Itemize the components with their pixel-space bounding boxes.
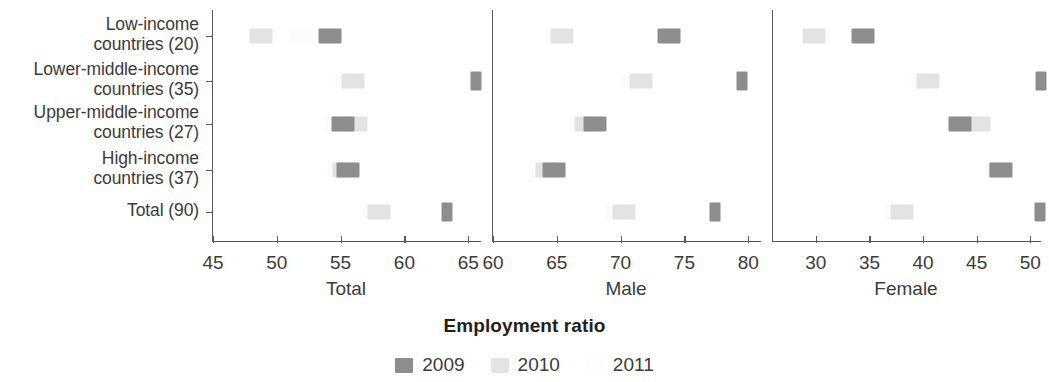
y-axis-tick: [206, 170, 213, 171]
data-point-2009-0: [319, 29, 342, 44]
y-axis-tick: [206, 81, 213, 82]
data-point-2009-3: [543, 163, 566, 178]
data-point-2009-4: [710, 203, 721, 222]
panel-male: 6065707580: [492, 10, 760, 242]
x-axis-tick: [816, 236, 817, 243]
y-axis-label-line: High-income: [93, 148, 199, 168]
data-point-2010-0: [250, 29, 273, 44]
y-axis-label-line: Lower-middle-income: [34, 59, 199, 79]
x-axis-tick: [341, 236, 342, 243]
x-axis-tick: [1030, 236, 1031, 243]
legend-item-2010[interactable]: 2010: [491, 354, 560, 376]
x-axis-tick-label: 60: [482, 252, 503, 274]
data-point-2010-4: [613, 205, 636, 220]
data-point-2009-4: [441, 203, 452, 222]
data-point-2010-0: [802, 29, 825, 44]
y-axis-label-line: countries (20): [93, 34, 199, 54]
legend-swatch-icon: [395, 358, 413, 373]
data-point-2009-0: [852, 29, 875, 44]
panel-caption-female: Female: [874, 278, 937, 300]
y-axis-label-line: countries (37): [93, 168, 199, 188]
y-axis-label-2: Upper-middle-incomecountries (27): [34, 102, 199, 142]
panel-caption-total: Total: [326, 278, 366, 300]
x-axis-tick-label: 50: [266, 252, 287, 274]
y-axis-label-1: Lower-middle-incomecountries (35): [34, 59, 199, 99]
x-axis-tick: [684, 236, 685, 243]
data-point-2009-2: [332, 117, 355, 132]
x-axis-tick: [977, 236, 978, 243]
x-axis-tick-label: 75: [674, 252, 695, 274]
x-axis-tick: [468, 236, 469, 243]
x-axis-tick-label: 65: [458, 252, 479, 274]
x-axis-tick: [923, 236, 924, 243]
data-point-2009-0: [658, 29, 681, 44]
data-point-2010-0: [550, 29, 573, 44]
legend-label: 2010: [518, 354, 560, 376]
chart-figure: Low-incomecountries (20)Lower-middle-inc…: [0, 0, 1049, 382]
x-axis-tick: [557, 236, 558, 243]
data-point-2009-3: [337, 163, 360, 178]
y-axis-label-line: countries (27): [34, 122, 199, 142]
x-axis-tick-label: 55: [330, 252, 351, 274]
panel-total: 4550556065: [212, 10, 480, 242]
y-axis-label-line: Upper-middle-income: [34, 102, 199, 122]
data-point-2010-1: [342, 74, 365, 89]
y-axis-tick: [206, 212, 213, 213]
data-point-2009-2: [948, 117, 971, 132]
data-point-2010-4: [890, 205, 913, 220]
x-axis-tick-label: 40: [913, 252, 934, 274]
y-axis-label-0: Low-incomecountries (20): [93, 14, 199, 54]
panel-baseline: [213, 241, 481, 242]
data-point-2009-2: [584, 117, 607, 132]
x-axis-tick: [213, 236, 214, 243]
y-axis-label-line: countries (35): [34, 79, 199, 99]
data-point-2009-1: [736, 72, 747, 91]
data-point-2009-1: [470, 72, 481, 91]
legend-item-2011[interactable]: 2011: [586, 354, 654, 376]
panel-baseline: [493, 241, 761, 242]
panel-baseline: [773, 241, 1041, 242]
data-point-2010-1: [917, 74, 940, 89]
x-axis-tick-label: 35: [859, 252, 880, 274]
y-axis-label-line: Total (90): [127, 200, 199, 220]
chart-legend: 200920102011: [0, 354, 1049, 376]
x-axis-tick-label: 70: [610, 252, 631, 274]
x-axis-tick-label: 50: [1020, 252, 1041, 274]
x-axis-tick-label: 80: [738, 252, 759, 274]
y-axis-label-3: High-incomecountries (37): [93, 148, 199, 188]
data-point-2009-1: [1036, 72, 1047, 91]
legend-swatch-icon: [491, 358, 509, 373]
data-point-2009-4: [1034, 203, 1045, 222]
y-axis-label-4: Total (90): [127, 200, 199, 220]
panel-caption-male: Male: [605, 278, 646, 300]
y-axis-tick: [206, 36, 213, 37]
legend-swatch-icon: [586, 358, 604, 373]
data-point-2011-0: [291, 29, 314, 44]
legend-item-2009[interactable]: 2009: [395, 354, 464, 376]
data-point-2010-4: [367, 205, 390, 220]
x-axis-tick-label: 60: [394, 252, 415, 274]
x-axis-tick-label: 45: [202, 252, 223, 274]
panel-female: 3035404550: [772, 10, 1040, 242]
x-axis-tick: [277, 236, 278, 243]
x-axis-tick-label: 30: [805, 252, 826, 274]
x-axis-tick: [748, 236, 749, 243]
x-axis-tick: [621, 236, 622, 243]
x-axis-tick: [404, 236, 405, 243]
legend-label: 2011: [613, 354, 654, 376]
x-axis-tick: [493, 236, 494, 243]
x-axis-title: Employment ratio: [0, 315, 1049, 337]
x-axis-tick-label: 65: [546, 252, 567, 274]
x-axis-tick-label: 45: [966, 252, 987, 274]
y-axis-tick: [206, 124, 213, 125]
y-axis-labels: Low-incomecountries (20)Lower-middle-inc…: [0, 0, 205, 240]
legend-label: 2009: [422, 354, 464, 376]
x-axis-tick: [869, 236, 870, 243]
y-axis-label-line: Low-income: [93, 14, 199, 34]
data-point-2009-3: [990, 163, 1013, 178]
data-point-2010-1: [630, 74, 653, 89]
